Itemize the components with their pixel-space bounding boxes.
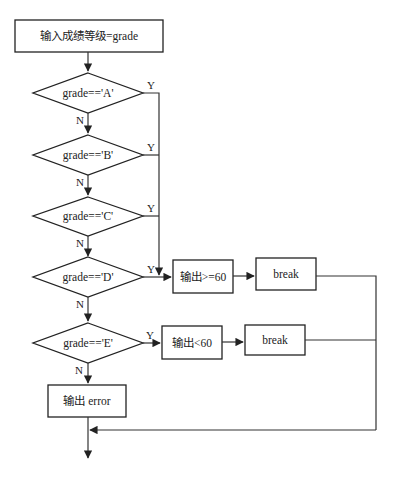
decision-b-no: N <box>76 176 84 188</box>
fail-break-label: break <box>262 334 288 346</box>
decision-e-yes: Y <box>146 329 154 341</box>
error-output-label: 输出 error <box>63 394 110 407</box>
decision-d-no: N <box>76 298 84 310</box>
decision-a-no: N <box>76 114 84 126</box>
pass-exit-line <box>316 276 376 430</box>
decision-c-no: N <box>76 237 84 249</box>
decision-e-label: grade=='E' <box>63 337 113 350</box>
decision-b: grade=='B' <box>33 135 143 175</box>
decision-c-yes: Y <box>147 202 155 214</box>
fail-output-box: 输出<60 <box>162 326 222 359</box>
decision-e: grade=='E' <box>33 323 143 363</box>
decision-c: grade=='C' <box>33 197 143 236</box>
start-box: 输入成绩等级=grade <box>15 20 163 52</box>
decision-d: grade=='D' <box>33 257 143 297</box>
pass-break-label: break <box>273 268 299 280</box>
decision-a-label: grade=='A' <box>63 87 114 100</box>
start-label: 输入成绩等级=grade <box>40 29 138 43</box>
error-output-box: 输出 error <box>48 385 126 417</box>
decision-b-yes: Y <box>147 141 155 153</box>
decision-a: grade=='A' <box>33 73 143 113</box>
yes-merge-line <box>143 93 159 275</box>
fail-break-box: break <box>245 325 305 355</box>
decision-b-label: grade=='B' <box>63 149 113 162</box>
decision-d-yes: Y <box>147 263 155 275</box>
decision-a-yes: Y <box>147 79 155 91</box>
pass-output-label: 输出>=60 <box>180 270 227 283</box>
decision-e-no: N <box>75 364 83 376</box>
flowchart-canvas: 输入成绩等级=grade grade=='A' Y N grade=='B' Y… <box>0 0 396 477</box>
decision-d-label: grade=='D' <box>63 271 114 284</box>
decision-c-label: grade=='C' <box>63 210 113 223</box>
pass-output-box: 输出>=60 <box>173 260 233 293</box>
fail-output-label: 输出<60 <box>172 336 212 349</box>
pass-break-box: break <box>256 258 316 290</box>
